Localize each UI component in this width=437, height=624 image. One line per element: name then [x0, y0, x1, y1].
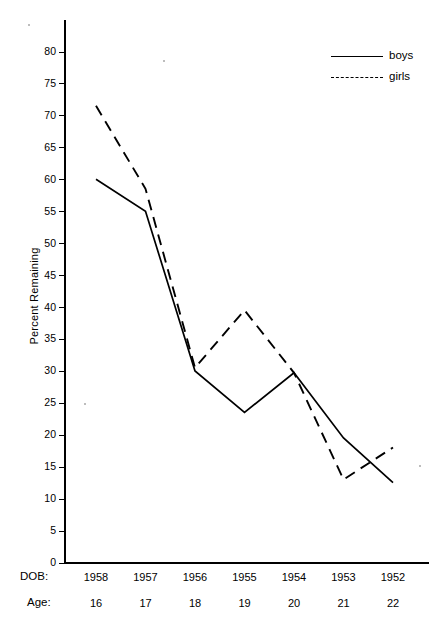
legend-item-boys: boys — [331, 46, 435, 67]
legend-label-boys: boys — [389, 49, 413, 61]
dob-cell: 1954 — [272, 571, 316, 583]
age-cell: 18 — [173, 597, 217, 609]
x-axis-row-dob: DOB: 1958195719561955195419531952 — [0, 566, 437, 592]
dob-cell: 1955 — [223, 571, 267, 583]
scan-speck — [163, 60, 165, 62]
age-cell: 21 — [322, 597, 366, 609]
age-cell: 19 — [223, 597, 267, 609]
age-row-title: Age: — [27, 596, 51, 608]
scan-speck — [84, 403, 86, 405]
age-cell: 20 — [272, 597, 316, 609]
legend-label-girls: girls — [389, 70, 410, 82]
age-cell: 16 — [74, 597, 118, 609]
age-cell: 17 — [124, 597, 168, 609]
series-line-boys — [96, 179, 393, 482]
dob-cell: 1953 — [322, 571, 366, 583]
age-cell: 22 — [371, 597, 415, 609]
dob-cell: 1956 — [173, 571, 217, 583]
line-chart: Percent Remaining 0510152025303540455055… — [0, 0, 437, 624]
legend-swatch-dashed — [331, 77, 383, 78]
series-line-girls — [96, 106, 393, 480]
dob-cell: 1958 — [74, 571, 118, 583]
dob-row-title: DOB: — [20, 570, 48, 582]
x-axis-table: DOB: 1958195719561955195419531952 Age: 1… — [0, 566, 437, 618]
dob-cell: 1957 — [124, 571, 168, 583]
legend: boys girls — [331, 46, 435, 88]
scan-speck — [419, 465, 421, 467]
dob-cell: 1952 — [371, 571, 415, 583]
legend-item-girls: girls — [331, 67, 435, 88]
legend-swatch-solid — [331, 56, 383, 57]
series-plot-area — [0, 0, 437, 624]
scan-speck — [28, 24, 30, 26]
x-axis-row-age: Age: 16171819202122 — [0, 592, 437, 618]
